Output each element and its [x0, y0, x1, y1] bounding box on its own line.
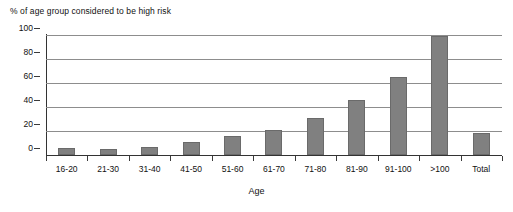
bar-slot — [87, 35, 128, 155]
x-tick-label: 91-100 — [378, 163, 419, 177]
x-tick-mark — [378, 156, 379, 161]
bar-slot — [129, 35, 170, 155]
bar-slot — [253, 35, 294, 155]
bar-slot — [336, 35, 377, 155]
x-tick-label: 71-80 — [295, 163, 336, 177]
bar[interactable] — [431, 36, 448, 155]
y-tick-label: 0 — [28, 144, 33, 153]
bar-slot — [419, 35, 460, 155]
y-tick-mark — [34, 100, 40, 101]
x-tick-mark — [419, 156, 420, 161]
y-tick-label: 60 — [24, 72, 33, 81]
x-tick-label: 16-20 — [46, 163, 87, 177]
x-axis-ticks — [46, 156, 502, 162]
y-tick-label: 100 — [19, 24, 33, 33]
y-tick-mark — [34, 28, 40, 29]
bar-slot — [461, 35, 502, 155]
x-tick-mark — [129, 156, 130, 161]
bar[interactable] — [141, 147, 158, 155]
x-axis-labels: 16-2021-3031-4041-5051-6061-7071-8081-90… — [46, 163, 502, 177]
y-tick-mark — [34, 148, 40, 149]
x-tick-label: 41-50 — [170, 163, 211, 177]
bar-chart: % of age group considered to be high ris… — [0, 0, 513, 212]
y-tick-mark — [34, 124, 40, 125]
bar-slot — [212, 35, 253, 155]
x-tick-label: 51-60 — [212, 163, 253, 177]
x-tick-mark — [502, 156, 503, 161]
y-axis: 020406080100 — [0, 28, 44, 160]
chart-title: % of age group considered to be high ris… — [10, 6, 171, 16]
bar-slot — [170, 35, 211, 155]
y-tick-label: 40 — [24, 96, 33, 105]
x-tick-label: >100 — [419, 163, 460, 177]
x-tick-label: 81-90 — [336, 163, 377, 177]
x-axis-title: Age — [0, 186, 513, 196]
x-tick-label: Total — [461, 163, 502, 177]
bar[interactable] — [224, 136, 241, 155]
x-tick-mark — [87, 156, 88, 161]
bar[interactable] — [307, 118, 324, 155]
bar-slot — [295, 35, 336, 155]
x-tick-label: 61-70 — [253, 163, 294, 177]
bar[interactable] — [183, 142, 200, 155]
y-tick-mark — [34, 76, 40, 77]
bar[interactable] — [390, 77, 407, 155]
x-tick-label: 21-30 — [87, 163, 128, 177]
x-tick-mark — [46, 156, 47, 161]
x-tick-mark — [336, 156, 337, 161]
y-tick-mark — [34, 52, 40, 53]
x-tick-mark — [253, 156, 254, 161]
bar[interactable] — [265, 130, 282, 155]
bar-slot — [378, 35, 419, 155]
bar-slot — [46, 35, 87, 155]
bar[interactable] — [348, 100, 365, 155]
x-tick-mark — [461, 156, 462, 161]
bar[interactable] — [473, 133, 490, 155]
x-tick-mark — [170, 156, 171, 161]
bars-group — [46, 35, 502, 155]
bar[interactable] — [58, 148, 75, 155]
y-tick-label: 80 — [24, 48, 33, 57]
x-tick-label: 31-40 — [129, 163, 170, 177]
y-tick-label: 20 — [24, 120, 33, 129]
x-tick-mark — [212, 156, 213, 161]
x-tick-mark — [295, 156, 296, 161]
